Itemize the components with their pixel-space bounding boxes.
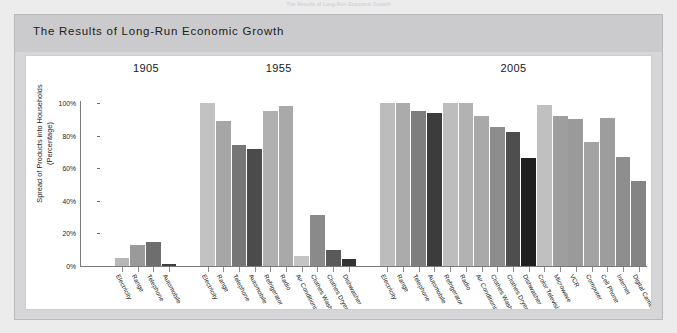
x-tick-mark — [387, 267, 388, 272]
x-tick-mark — [529, 267, 530, 272]
x-category-label: Range — [216, 273, 231, 293]
bar — [342, 259, 357, 266]
bar — [115, 258, 130, 266]
x-tick-mark — [138, 267, 139, 272]
x-tick-mark — [639, 267, 640, 272]
bar — [247, 149, 262, 266]
x-tick-mark — [403, 267, 404, 272]
x-tick-mark — [466, 267, 467, 272]
bar — [294, 256, 309, 266]
x-category-label: VCR — [569, 273, 581, 288]
bar — [427, 113, 442, 266]
bar — [232, 145, 247, 266]
x-category-label: Digital Camera — [631, 273, 652, 310]
bar — [411, 111, 426, 266]
x-tick-mark — [208, 267, 209, 272]
bar — [326, 250, 341, 266]
x-tick-mark — [607, 267, 608, 272]
x-tick-mark — [255, 267, 256, 272]
x-tick-mark — [419, 267, 420, 272]
x-tick-mark — [223, 267, 224, 272]
bar-series-layer — [26, 56, 652, 266]
bar — [396, 103, 411, 266]
page-background: The Results of Long-Run Economic Growth … — [0, 0, 677, 333]
x-tick-mark — [270, 267, 271, 272]
chart-plot-panel: Spread of Products into Households (Perc… — [25, 55, 652, 310]
x-category-label: Radio — [459, 273, 473, 291]
bar — [521, 158, 536, 266]
bar — [474, 116, 489, 266]
x-category-label: Range — [130, 273, 145, 293]
x-tick-mark — [434, 267, 435, 272]
bar — [216, 121, 231, 266]
bar — [162, 264, 177, 266]
bar — [506, 132, 521, 266]
x-tick-mark — [153, 267, 154, 272]
x-axis-category-labels: ElectricityRangeTelephoneAutomobileElect… — [26, 267, 652, 310]
x-tick-mark — [513, 267, 514, 272]
x-category-label: Internet — [616, 273, 632, 296]
x-tick-mark — [239, 267, 240, 272]
x-category-label: Radio — [279, 273, 293, 291]
bar — [616, 157, 631, 266]
x-tick-mark — [349, 267, 350, 272]
x-tick-mark — [544, 267, 545, 272]
page-title: The Results of Long-Run Economic Growth — [33, 25, 284, 37]
x-tick-mark — [169, 267, 170, 272]
x-tick-mark — [497, 267, 498, 272]
bar — [568, 119, 583, 266]
x-tick-mark — [482, 267, 483, 272]
bar — [146, 242, 161, 266]
bar — [263, 111, 278, 266]
x-tick-mark — [576, 267, 577, 272]
x-tick-mark — [302, 267, 303, 272]
x-tick-mark — [286, 267, 287, 272]
bar — [459, 103, 474, 266]
exhibit-card: The Results of Long-Run Economic Growth … — [14, 14, 663, 320]
bar — [600, 118, 615, 266]
x-tick-mark — [592, 267, 593, 272]
bar — [553, 116, 568, 266]
bar — [279, 106, 294, 266]
x-category-label: Range — [396, 273, 411, 293]
x-tick-mark — [333, 267, 334, 272]
bar — [310, 215, 325, 266]
bar — [490, 127, 505, 266]
bar — [200, 103, 215, 266]
bar — [130, 245, 145, 266]
x-tick-mark — [122, 267, 123, 272]
x-tick-mark — [317, 267, 318, 272]
running-head: The Results of Long-Run Economic Growth — [0, 0, 677, 9]
x-tick-mark — [450, 267, 451, 272]
x-tick-mark — [623, 267, 624, 272]
title-bar: The Results of Long-Run Economic Growth — [15, 15, 662, 52]
bar — [443, 103, 458, 266]
x-tick-mark — [560, 267, 561, 272]
bar — [631, 181, 646, 266]
bar — [537, 105, 552, 266]
bar — [584, 142, 599, 266]
bar — [380, 103, 395, 266]
